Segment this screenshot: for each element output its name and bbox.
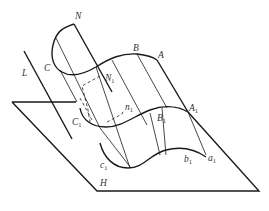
- label-n: N: [74, 11, 82, 21]
- label-b: B: [133, 43, 139, 53]
- generator-left-lower: [100, 128, 131, 168]
- label-n1: N1: [104, 73, 115, 84]
- label-plane-h: H: [99, 178, 108, 188]
- top-curve-nc: [52, 24, 74, 72]
- hidden-generator: [80, 98, 92, 120]
- label-c1-projection: c1: [100, 160, 107, 171]
- generator-mid2: [112, 60, 147, 125]
- hidden-line-n1-n1: [82, 76, 100, 122]
- generator-c: [56, 38, 100, 128]
- label-a: A: [157, 50, 164, 60]
- label-n1-projection: n1: [125, 102, 133, 113]
- label-b1-projection: b1: [184, 154, 192, 165]
- label-c: C: [44, 63, 51, 73]
- label-l: L: [21, 68, 27, 78]
- hidden-line-n1-right: [107, 110, 124, 122]
- generator-b: [137, 54, 167, 108]
- generator-a1-a1: [188, 112, 206, 155]
- label-a1: A1: [188, 103, 198, 114]
- cylinder-projection-diagram: N C B A L N1 n1 C1 B1 A1 c1 b1 a1 H: [0, 0, 269, 211]
- label-c1: C1: [72, 117, 82, 128]
- curve-c1-b1-a1: [80, 107, 188, 127]
- label-b1: B1: [157, 113, 166, 124]
- plane-h-outline: [12, 102, 259, 191]
- label-a1-projection: a1: [208, 153, 216, 164]
- generator-a: [157, 60, 188, 112]
